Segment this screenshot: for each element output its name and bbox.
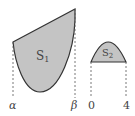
label-four: 4 <box>123 99 130 112</box>
label-zero: 0 <box>88 99 95 112</box>
area-diagram: S1 S2 α β 0 4 <box>0 0 135 116</box>
label-beta: β <box>70 99 77 112</box>
label-alpha: α <box>9 99 17 112</box>
